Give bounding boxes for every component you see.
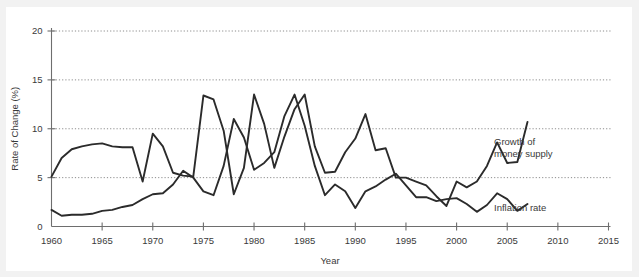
x-tick-label: 1985 [294, 235, 315, 246]
x-tick-label: 1960 [41, 235, 62, 246]
series-annotation-inflation-rate: Inflation rate [494, 202, 546, 213]
series-line-money-supply [52, 95, 528, 206]
y-tick-label-group: 05101520 [32, 25, 43, 232]
x-tick-label: 1995 [395, 235, 416, 246]
y-tick-label: 15 [32, 74, 43, 85]
y-tick-label: 10 [32, 123, 43, 134]
x-tick-label: 1980 [243, 235, 264, 246]
figure-canvas: 05101520 1960196519701975198019851990199… [0, 0, 639, 277]
series-line-inflation-rate [52, 95, 528, 216]
y-tick-label: 20 [32, 25, 43, 36]
y-tick-label: 0 [37, 221, 42, 232]
x-tick-label: 2010 [547, 235, 568, 246]
x-axis-title: Year [320, 255, 339, 266]
x-tick-label: 1970 [142, 235, 163, 246]
x-tick-label: 1975 [193, 235, 214, 246]
x-tick-label: 2000 [446, 235, 467, 246]
y-axis-title: Rate of Change (%) [9, 87, 20, 171]
x-tick-label: 1990 [345, 235, 366, 246]
line-chart: 05101520 1960196519701975198019851990199… [0, 0, 639, 277]
series-annotation-money-supply-line2: money supply [494, 148, 553, 159]
y-tick-label: 5 [37, 172, 42, 183]
x-tick-label-group: 1960196519701975198019851990199520002005… [41, 235, 619, 246]
series-annotation-money-supply-line1: Growth of [494, 136, 536, 147]
x-tick-label: 2005 [497, 235, 518, 246]
x-tick-label: 1965 [92, 235, 113, 246]
x-tick-label: 2015 [598, 235, 619, 246]
